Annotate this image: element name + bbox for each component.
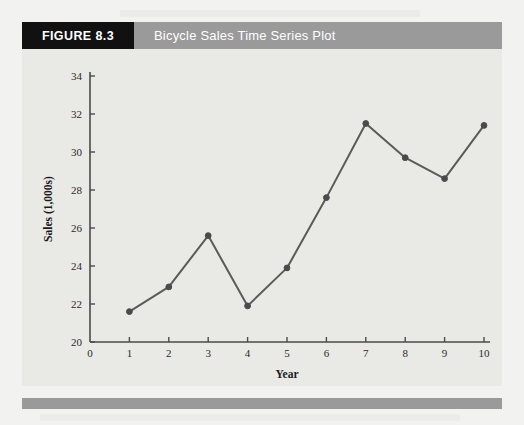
background-text-line — [40, 414, 460, 421]
chart-panel: 2022242628303234 012345678910 Sales (1,0… — [22, 49, 502, 386]
svg-text:34: 34 — [71, 70, 83, 82]
svg-text:7: 7 — [363, 347, 369, 359]
svg-text:4: 4 — [245, 347, 251, 359]
x-axis-title: Year — [276, 368, 299, 380]
figure-footer-band — [22, 398, 502, 409]
figure-title: Bicycle Sales Time Series Plot — [134, 22, 336, 49]
svg-text:5: 5 — [284, 347, 290, 359]
series-markers — [127, 121, 487, 315]
svg-text:22: 22 — [71, 298, 82, 310]
figure-page: FIGURE 8.3 Bicycle Sales Time Series Plo… — [0, 0, 524, 425]
line-chart: 2022242628303234 012345678910 Sales (1,0… — [22, 49, 502, 386]
svg-text:10: 10 — [479, 347, 491, 359]
svg-text:26: 26 — [71, 222, 83, 234]
svg-text:8: 8 — [402, 347, 408, 359]
background-text-line — [120, 10, 420, 17]
svg-text:24: 24 — [71, 260, 83, 272]
x-axis-ticks: 012345678910 — [87, 337, 490, 359]
svg-text:3: 3 — [205, 347, 211, 359]
svg-text:0: 0 — [87, 347, 93, 359]
svg-text:32: 32 — [71, 108, 82, 120]
svg-text:30: 30 — [71, 146, 83, 158]
y-axis-ticks: 2022242628303234 — [71, 70, 95, 348]
svg-text:6: 6 — [324, 347, 330, 359]
figure-caption-bar: FIGURE 8.3 Bicycle Sales Time Series Plo… — [22, 22, 502, 49]
svg-text:20: 20 — [71, 336, 83, 348]
svg-text:1: 1 — [127, 347, 132, 359]
series-line-sales — [129, 124, 484, 312]
figure-number-tag: FIGURE 8.3 — [22, 22, 134, 49]
svg-text:2: 2 — [166, 347, 172, 359]
svg-text:28: 28 — [71, 184, 83, 196]
y-axis-title: Sales (1,000s) — [42, 176, 55, 242]
svg-text:9: 9 — [442, 347, 448, 359]
